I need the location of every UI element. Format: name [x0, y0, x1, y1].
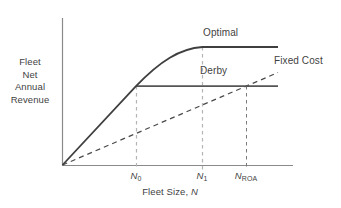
x-tick-label-nroa: NROA	[226, 170, 266, 183]
series-line-optimal	[63, 47, 279, 165]
x-tick-label-n0-sub: 0	[137, 175, 141, 182]
x-axis-title-prefix: Fleet Size,	[142, 186, 191, 197]
x-tick-label-nroa-base: N	[235, 170, 242, 181]
x-axis-title-symbol: N	[191, 186, 198, 197]
x-axis-title: Fleet Size, N	[110, 186, 230, 198]
chart-figure: Fleet Net Annual Revenue Optimal Derby F…	[0, 0, 341, 208]
series-label-optimal: Optimal	[203, 27, 238, 39]
x-tick-label-n0: N0	[116, 170, 156, 183]
y-axis-title-line-4: Revenue	[0, 94, 60, 107]
x-tick-label-n1-sub: 1	[203, 175, 207, 182]
x-tick-label-n1: N1	[182, 170, 222, 183]
y-axis-title: Fleet Net Annual Revenue	[0, 56, 60, 106]
series-label-derby: Derby	[200, 65, 227, 77]
series-label-fixed-cost: Fixed Cost	[274, 55, 323, 67]
y-axis-title-line-1: Fleet	[0, 56, 60, 69]
y-axis-title-line-2: Net	[0, 69, 60, 82]
x-tick-label-nroa-sub: ROA	[242, 175, 257, 182]
y-axis-title-line-3: Annual	[0, 81, 60, 94]
